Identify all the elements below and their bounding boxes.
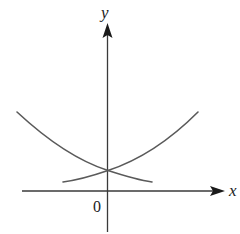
x-axis <box>22 186 225 196</box>
increasing-curve <box>63 112 198 182</box>
decreasing-curve <box>17 112 152 182</box>
x-axis-label: x <box>228 181 237 200</box>
y-axis-label: y <box>99 3 109 22</box>
function-graph: y x 0 <box>0 0 240 234</box>
y-axis <box>103 23 113 232</box>
origin-label: 0 <box>93 198 101 215</box>
